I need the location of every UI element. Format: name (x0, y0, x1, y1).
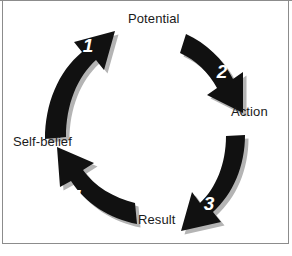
diagram-canvas: 1 2 3 4 Potential Action Result Self-bel… (0, 0, 292, 256)
cycle-arrow-4-number: 4 (70, 186, 82, 207)
cycle-arrow-3: 3 (181, 135, 249, 235)
cycle-arrow-1-number: 1 (83, 35, 94, 56)
cycle-arrow-2-body (180, 34, 243, 113)
cycle-label-action: Action (231, 104, 268, 119)
cycle-arrow-3-number: 3 (204, 193, 215, 214)
cycle-label-potential: Potential (128, 11, 180, 26)
cycle-arrow-1: 1 (45, 31, 119, 143)
cycle-label-self-belief: Self-belief (13, 134, 72, 149)
cycle-arrow-2-number: 2 (216, 61, 228, 82)
cycle-label-result: Result (138, 212, 175, 227)
cycle-arrow-4: 4 (57, 147, 141, 228)
